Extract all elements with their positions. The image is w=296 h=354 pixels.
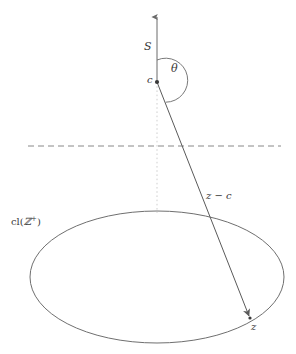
closure-set-ellipse (30, 211, 284, 343)
diagram-canvas (0, 0, 296, 354)
closure-set-label: cl(ℤ+) (11, 216, 41, 227)
ray-label-s: S (144, 41, 152, 52)
geometry-figure: S θ c z − c cl(ℤ+) z (0, 0, 296, 354)
apex-point-c (155, 80, 159, 84)
target-label-z: z (251, 322, 256, 332)
target-point-z (248, 316, 251, 319)
vector-label-z-minus-c: z − c (206, 191, 232, 201)
angle-label-theta: θ (171, 63, 178, 74)
vector-line-z-minus-c (157, 82, 249, 316)
apex-label-c: c (147, 75, 153, 85)
set-symbol-z: ℤ (24, 216, 31, 227)
closure-suffix: ) (37, 216, 41, 227)
closure-prefix: cl( (11, 216, 24, 227)
